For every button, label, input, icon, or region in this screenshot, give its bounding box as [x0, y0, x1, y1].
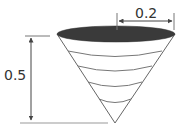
slice-arc [88, 82, 142, 87]
cone-top-ellipse [57, 26, 175, 42]
cone-body [57, 34, 175, 123]
height-label: 0.5 [4, 68, 26, 82]
slice-arc [68, 51, 162, 57]
radius-label: 0.2 [135, 6, 157, 20]
slice-arc [99, 99, 131, 103]
slice-arc [78, 66, 152, 71]
height-dimension [20, 36, 108, 123]
